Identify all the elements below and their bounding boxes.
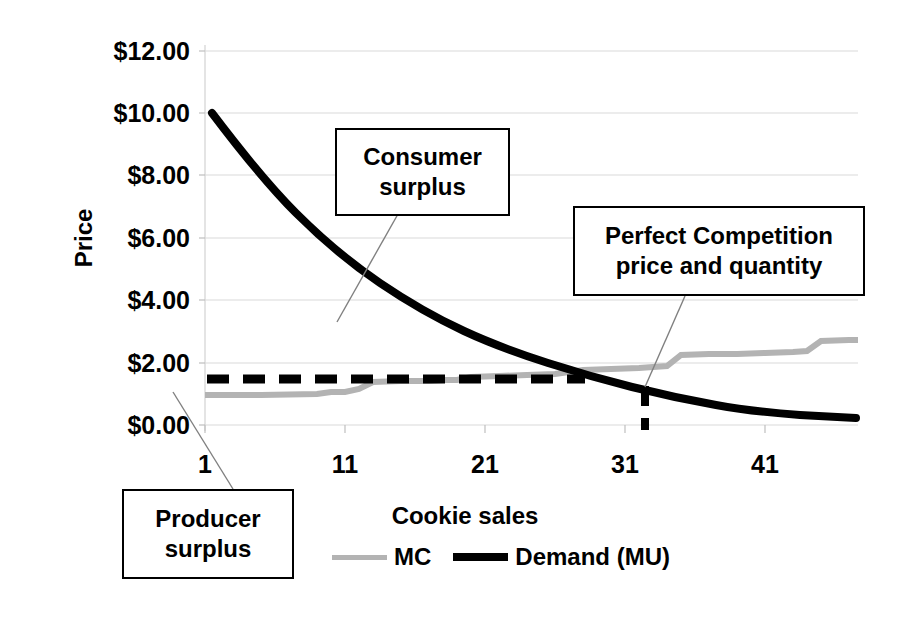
legend-label-demand: Demand (MU) bbox=[515, 545, 670, 569]
chart-figure: Price $12.00 $10.00 $8.00 $6.00 $4.00 $2… bbox=[0, 0, 902, 621]
y-tick-label-6: $6.00 bbox=[60, 226, 190, 251]
x-tick-label-11: 11 bbox=[332, 452, 358, 477]
callout-consumer-surplus-line-2: surplus bbox=[379, 172, 466, 202]
y-tick-label-2: $2.00 bbox=[60, 351, 190, 376]
x-tick-label-1: 1 bbox=[198, 452, 212, 477]
x-tick-label-21: 21 bbox=[471, 452, 499, 477]
callout-perfect-competition-line-2: price and quantity bbox=[616, 251, 823, 281]
chart-legend: MC Demand (MU) bbox=[332, 545, 670, 569]
y-tick-label-10: $10.00 bbox=[60, 101, 190, 126]
leader-line-consumer-surplus bbox=[337, 214, 398, 322]
legend-item-demand[interactable]: Demand (MU) bbox=[453, 545, 670, 569]
callout-consumer-surplus-line-1: Consumer bbox=[363, 142, 482, 172]
legend-swatch-mc-icon bbox=[332, 555, 387, 560]
legend-swatch-demand-icon bbox=[453, 553, 508, 561]
y-axis-line bbox=[199, 45, 205, 431]
callout-producer-surplus-line-1: Producer bbox=[155, 504, 260, 534]
x-tick-label-31: 31 bbox=[611, 452, 639, 477]
y-tick-label-4: $4.00 bbox=[60, 288, 190, 313]
legend-label-mc: MC bbox=[394, 545, 431, 569]
leader-line-perfect-competition bbox=[645, 296, 685, 387]
y-tick-label-12: $12.00 bbox=[60, 39, 190, 64]
callout-perfect-competition: Perfect Competition price and quantity bbox=[573, 206, 865, 296]
callout-producer-surplus-line-2: surplus bbox=[165, 534, 252, 564]
x-axis-title: Cookie sales bbox=[392, 504, 539, 528]
callout-producer-surplus: Producer surplus bbox=[122, 489, 294, 579]
y-tick-label-0: $0.00 bbox=[60, 413, 190, 438]
y-tick-label-8: $8.00 bbox=[60, 163, 190, 188]
x-axis-ticks bbox=[205, 425, 765, 433]
legend-item-mc[interactable]: MC bbox=[332, 545, 431, 569]
callout-perfect-competition-line-1: Perfect Competition bbox=[605, 221, 833, 251]
callout-consumer-surplus: Consumer surplus bbox=[335, 128, 510, 216]
series-line-mc bbox=[205, 340, 858, 395]
x-tick-label-41: 41 bbox=[751, 452, 779, 477]
